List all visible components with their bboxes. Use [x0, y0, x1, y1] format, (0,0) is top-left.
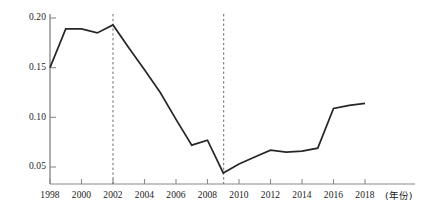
line-chart: 0.05 0.10 0.15 0.20 1998 2000 2002 2004 … [0, 0, 431, 211]
x-axis-label-2018: 2018 [347, 191, 383, 201]
data-series-line [50, 25, 365, 173]
y-axis-label-0.05: 0.05 [14, 162, 46, 172]
chart-plot-area [0, 0, 431, 211]
y-axis-label-0.10: 0.10 [14, 113, 46, 123]
y-axis-label-0.20: 0.20 [14, 13, 46, 23]
y-axis-ticks [50, 18, 56, 167]
x-axis-caption: (年份) [385, 191, 412, 201]
y-axis-label-0.15: 0.15 [14, 63, 46, 73]
x-axis-ticks [50, 179, 365, 184]
